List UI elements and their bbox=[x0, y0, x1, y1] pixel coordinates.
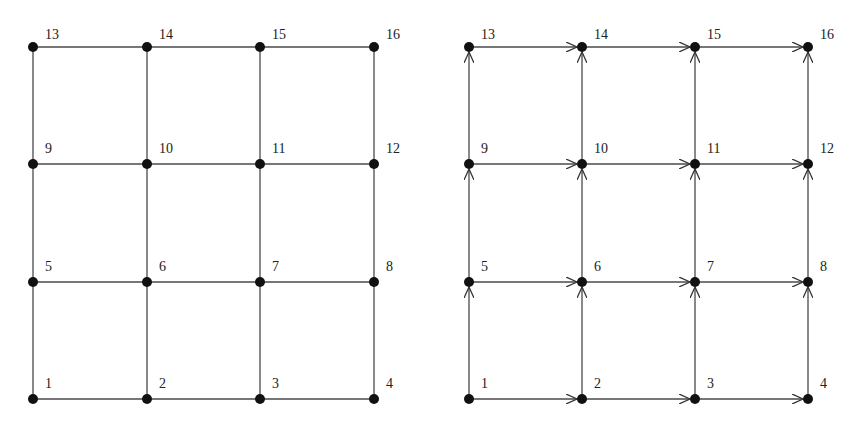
node-6 bbox=[577, 277, 587, 287]
node-label: 15 bbox=[707, 27, 721, 42]
node-label: 11 bbox=[707, 141, 720, 156]
node-3 bbox=[255, 394, 265, 404]
node-5 bbox=[28, 277, 38, 287]
node-12 bbox=[803, 159, 813, 169]
node-1 bbox=[28, 394, 38, 404]
node-label: 1 bbox=[481, 376, 488, 391]
node-label: 6 bbox=[594, 259, 601, 274]
node-label: 9 bbox=[481, 141, 488, 156]
node-6 bbox=[142, 277, 152, 287]
node-7 bbox=[690, 277, 700, 287]
node-12 bbox=[369, 159, 379, 169]
node-14 bbox=[577, 42, 587, 52]
node-8 bbox=[369, 277, 379, 287]
node-label: 5 bbox=[45, 259, 52, 274]
node-label: 12 bbox=[386, 141, 400, 156]
node-label: 2 bbox=[594, 376, 601, 391]
node-2 bbox=[142, 394, 152, 404]
node-label: 13 bbox=[45, 27, 59, 42]
node-13 bbox=[464, 42, 474, 52]
node-16 bbox=[803, 42, 813, 52]
node-label: 3 bbox=[707, 376, 714, 391]
node-15 bbox=[690, 42, 700, 52]
node-11 bbox=[690, 159, 700, 169]
node-label: 3 bbox=[272, 376, 279, 391]
node-16 bbox=[369, 42, 379, 52]
node-label: 10 bbox=[594, 141, 608, 156]
node-11 bbox=[255, 159, 265, 169]
undirected-grid-graph: 12345678910111213141516 bbox=[28, 27, 400, 404]
node-4 bbox=[369, 394, 379, 404]
node-label: 13 bbox=[481, 27, 495, 42]
node-label: 14 bbox=[594, 27, 608, 42]
node-5 bbox=[464, 277, 474, 287]
node-label: 16 bbox=[386, 27, 400, 42]
node-label: 1 bbox=[45, 376, 52, 391]
node-label: 6 bbox=[159, 259, 166, 274]
node-label: 10 bbox=[159, 141, 173, 156]
node-label: 8 bbox=[820, 259, 827, 274]
node-label: 14 bbox=[159, 27, 173, 42]
node-label: 7 bbox=[707, 259, 714, 274]
node-9 bbox=[28, 159, 38, 169]
node-label: 12 bbox=[820, 141, 834, 156]
node-10 bbox=[577, 159, 587, 169]
node-label: 4 bbox=[820, 376, 827, 391]
node-7 bbox=[255, 277, 265, 287]
node-label: 11 bbox=[272, 141, 285, 156]
node-14 bbox=[142, 42, 152, 52]
node-8 bbox=[803, 277, 813, 287]
node-label: 7 bbox=[272, 259, 279, 274]
node-label: 15 bbox=[272, 27, 286, 42]
node-13 bbox=[28, 42, 38, 52]
node-10 bbox=[142, 159, 152, 169]
directed-grid-graph: 12345678910111213141516 bbox=[464, 27, 834, 404]
node-2 bbox=[577, 394, 587, 404]
grid-graphs-canvas: 12345678910111213141516 1234567891011121… bbox=[0, 0, 850, 429]
node-label: 5 bbox=[481, 259, 488, 274]
node-3 bbox=[690, 394, 700, 404]
node-label: 4 bbox=[386, 376, 393, 391]
node-label: 8 bbox=[386, 259, 393, 274]
node-9 bbox=[464, 159, 474, 169]
node-4 bbox=[803, 394, 813, 404]
node-15 bbox=[255, 42, 265, 52]
node-label: 9 bbox=[45, 141, 52, 156]
node-label: 16 bbox=[820, 27, 834, 42]
node-1 bbox=[464, 394, 474, 404]
node-label: 2 bbox=[159, 376, 166, 391]
